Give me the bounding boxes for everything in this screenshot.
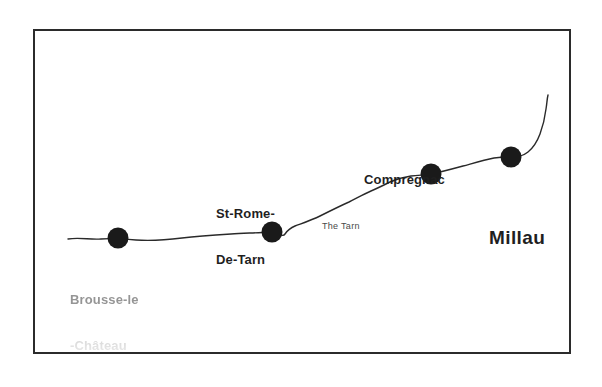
city-label-line: De-Tarn [216, 252, 275, 267]
city-label-line: St-Rome- [216, 206, 275, 221]
city-dot-brousse-le-chateau[interactable] [108, 228, 129, 249]
city-label-line: -Château [70, 338, 139, 353]
city-dot-millau[interactable] [501, 147, 522, 168]
map-figure: Brousse-le -Château St-Rome- De-Tarn Com… [0, 0, 602, 387]
city-label-line: Compregnac [364, 172, 445, 187]
city-label-millau: Millau [489, 182, 545, 294]
city-label-line: Brousse-le [70, 292, 139, 307]
city-label-compregnac: Compregnac [364, 141, 445, 218]
city-label-st-rome-de-tarn: St-Rome- De-Tarn [216, 175, 275, 298]
river-label-the-tarn: The Tarn [322, 221, 360, 232]
city-label-brousse-le-chateau: Brousse-le -Château [70, 261, 139, 384]
city-label-line: Millau [489, 227, 545, 249]
